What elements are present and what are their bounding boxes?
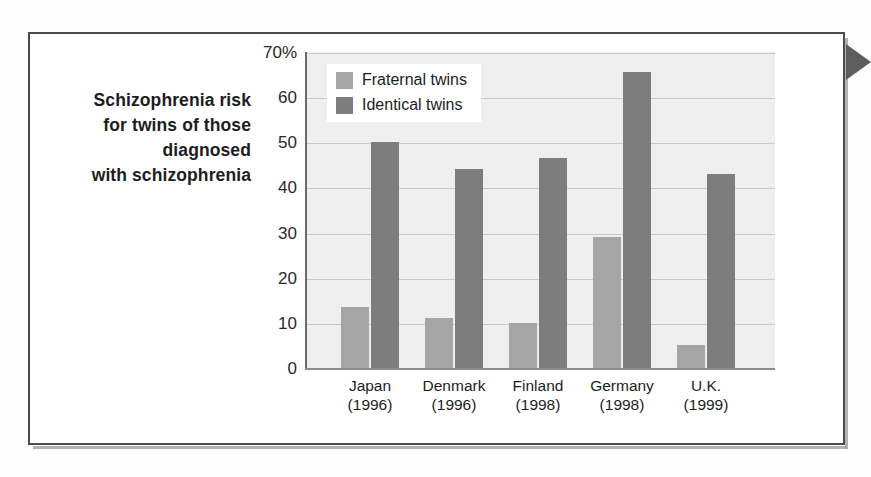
y-axis-tick-label: 10 (237, 314, 297, 334)
bar-japan-identical (371, 142, 399, 368)
category-name: Finland (513, 377, 564, 394)
bar-finland-identical (539, 158, 567, 368)
chart-legend: Fraternal twins Identical twins (327, 64, 481, 122)
caption-line: diagnosed (46, 138, 251, 163)
bar-denmark-identical (455, 169, 483, 368)
bar-japan-fraternal (341, 307, 369, 368)
bar-finland-fraternal (509, 323, 537, 368)
y-axis-line (305, 52, 307, 370)
caption-line: for twins of those (46, 113, 251, 138)
bar-uk-fraternal (677, 345, 705, 368)
category-year: (1999) (646, 395, 766, 414)
chart-caption: Schizophrenia risk for twins of those di… (46, 88, 251, 188)
caption-line: with schizophrenia (46, 163, 251, 188)
legend-swatch-identical (336, 97, 353, 114)
legend-item-fraternal: Fraternal twins (336, 71, 467, 89)
legend-swatch-fraternal (336, 72, 353, 89)
bar-group (509, 52, 567, 368)
x-axis-line (305, 368, 775, 370)
legend-label-fraternal: Fraternal twins (362, 71, 467, 89)
right-pointing-arrow-icon (846, 44, 871, 80)
y-axis-tick-label: 40 (237, 178, 297, 198)
frame-shadow-bottom (33, 446, 847, 449)
y-axis-tick-label: 20 (237, 269, 297, 289)
category-name: Japan (349, 377, 391, 394)
bar-germany-fraternal (593, 237, 621, 368)
y-axis-tick-label: 30 (237, 224, 297, 244)
bar-uk-identical (707, 174, 735, 368)
y-axis-tick-label: 50 (237, 133, 297, 153)
y-axis-tick-label: 60 (237, 88, 297, 108)
y-axis-tick-label: 70% (237, 43, 297, 63)
category-name: U.K. (691, 377, 721, 394)
bar-group (593, 52, 651, 368)
bar-chart: 010203040506070% Japan(1996)Denmark(1996… (305, 52, 775, 370)
bar-denmark-fraternal (425, 318, 453, 368)
caption-line: Schizophrenia risk (46, 88, 251, 113)
figure-page: Schizophrenia risk for twins of those di… (0, 0, 871, 477)
legend-label-identical: Identical twins (362, 96, 463, 114)
legend-item-identical: Identical twins (336, 96, 467, 114)
bar-germany-identical (623, 72, 651, 368)
category-name: Germany (590, 377, 654, 394)
category-name: Denmark (423, 377, 486, 394)
x-axis-category-label: U.K.(1999) (646, 376, 766, 414)
frame-shadow-right (845, 38, 848, 449)
y-axis-tick-label: 0 (237, 359, 297, 379)
bar-group (677, 52, 735, 368)
y-axis-tick-labels: 010203040506070% (237, 52, 297, 370)
